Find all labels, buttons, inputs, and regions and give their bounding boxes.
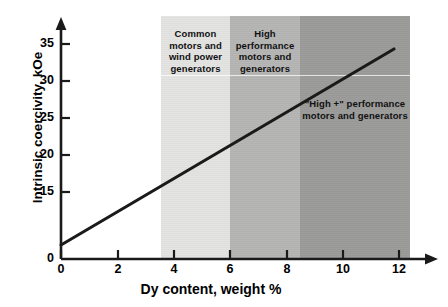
x-tick-label-2: 2 [106,262,130,276]
x-tick-label-0: 0 [49,262,73,276]
y-axis-title: Intrinsic coercivity, kOe [30,20,45,235]
x-axis-arrowhead [425,254,438,265]
x-axis-title: Dy content, weight % [61,281,361,297]
y-axis-ticks [61,44,70,192]
x-axis-ticks [61,250,399,259]
data-line-coercivity [61,49,394,245]
x-tick-label-10: 10 [331,262,355,276]
x-tick-label-12: 12 [387,262,411,276]
y-axis-arrowhead [56,17,67,30]
plot-area [0,0,448,307]
chart-figure: Common motors and wind power generators … [0,0,448,307]
x-tick-label-8: 8 [275,262,299,276]
x-tick-label-6: 6 [218,262,242,276]
x-tick-label-4: 4 [162,262,186,276]
